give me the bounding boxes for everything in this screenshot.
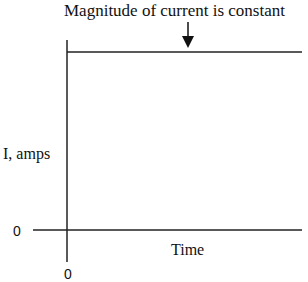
annotation-arrow-head-icon: [182, 36, 194, 48]
x-axis-label: Time: [171, 241, 204, 259]
x-tick-zero: 0: [64, 266, 72, 282]
chart-canvas: [0, 0, 308, 282]
y-tick-zero: 0: [13, 223, 21, 239]
annotation-text: Magnitude of current is constant: [64, 1, 285, 21]
y-axis-label: I, amps: [3, 145, 50, 163]
